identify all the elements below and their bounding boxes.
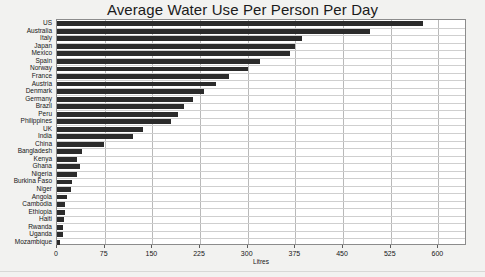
x-tick-label: 0	[54, 249, 58, 258]
bar-us	[57, 21, 423, 26]
bar-china	[57, 142, 104, 147]
bar-row	[57, 195, 465, 200]
y-label-norway: Norway	[30, 64, 52, 71]
bar-burkina-faso	[57, 180, 72, 185]
y-label-italy: Italy	[40, 34, 52, 41]
y-label-cambodia: Cambodia	[22, 200, 52, 207]
y-label-rwanda: Rwanda	[28, 223, 52, 230]
bar-spain	[57, 59, 260, 64]
y-label-mozambique: Mozambique	[15, 238, 52, 245]
y-label-burkina-faso: Burkina Faso	[14, 177, 52, 184]
bar-row	[57, 97, 465, 102]
bar-row	[57, 202, 465, 207]
y-label-china: China	[35, 140, 52, 147]
bar-angola	[57, 195, 67, 200]
bar-row	[57, 149, 465, 154]
bar-row	[57, 240, 465, 245]
chart-title: Average Water Use Per Person Per Day	[0, 0, 485, 18]
bar-row	[57, 164, 465, 169]
bar-row	[57, 157, 465, 162]
bar-denmark	[57, 89, 204, 94]
bar-italy	[57, 36, 302, 41]
y-label-peru: Peru	[38, 110, 52, 117]
bar-row	[57, 89, 465, 94]
y-label-bangladesh: Bangladesh	[18, 147, 52, 154]
bar-row	[57, 104, 465, 109]
bar-row	[57, 142, 465, 147]
chart-container: Average Water Use Per Person Per Day USA…	[0, 0, 485, 277]
bar-philippines	[57, 119, 171, 124]
bar-row	[57, 134, 465, 139]
y-label-brazil: Brazil	[36, 102, 52, 109]
bar-row	[57, 127, 465, 132]
x-tick-label: 375	[289, 249, 301, 258]
x-tick-label: 450	[336, 249, 348, 258]
y-label-nigeria: Nigeria	[31, 170, 52, 177]
y-label-angola: Angola	[32, 193, 52, 200]
x-tick-label: 150	[146, 249, 158, 258]
bar-austria	[57, 82, 216, 87]
bar-row	[57, 36, 465, 41]
x-tick	[247, 245, 248, 248]
y-label-australia: Australia	[27, 27, 52, 34]
x-tick-label: 300	[241, 249, 253, 258]
bar-rwanda	[57, 225, 63, 230]
bar-niger	[57, 187, 71, 192]
bar-kenya	[57, 157, 77, 162]
bar-nigeria	[57, 172, 77, 177]
y-label-ghana: Ghana	[32, 162, 52, 169]
bar-haiti	[57, 217, 64, 222]
y-label-denmark: Denmark	[26, 87, 52, 94]
bar-row	[57, 180, 465, 185]
y-label-germany: Germany	[25, 95, 52, 102]
bar-mozambique	[57, 240, 60, 245]
bar-uk	[57, 127, 143, 132]
bar-australia	[57, 29, 370, 34]
bar-row	[57, 44, 465, 49]
y-label-spain: Spain	[35, 57, 52, 64]
bar-row	[57, 59, 465, 64]
x-tick-label: 225	[193, 249, 205, 258]
bar-row	[57, 119, 465, 124]
x-tick	[342, 245, 343, 248]
y-label-india: India	[38, 132, 52, 139]
x-axis-title: Litres	[56, 258, 466, 265]
y-label-us: US	[43, 19, 52, 26]
bar-series	[57, 20, 465, 244]
bar-row	[57, 67, 465, 72]
x-tick	[56, 245, 57, 248]
x-tick	[390, 245, 391, 248]
x-tick	[294, 245, 295, 248]
y-label-niger: Niger	[36, 185, 52, 192]
bar-uganda	[57, 232, 63, 237]
bar-japan	[57, 44, 295, 49]
bar-cambodia	[57, 202, 65, 207]
bar-bangladesh	[57, 149, 82, 154]
bar-norway	[57, 67, 248, 72]
bar-row	[57, 210, 465, 215]
y-axis-category-labels: USAustraliaItalyJapanMexicoSpainNorwayFr…	[0, 19, 55, 245]
y-label-philippines: Philippines	[21, 117, 52, 124]
y-label-austria: Austria	[32, 80, 52, 87]
bar-row	[57, 187, 465, 192]
x-tick	[199, 245, 200, 248]
y-label-kenya: Kenya	[34, 155, 52, 162]
x-tick	[437, 245, 438, 248]
bar-row	[57, 21, 465, 26]
y-label-uk: UK	[43, 125, 52, 132]
bar-france	[57, 74, 229, 79]
x-tick	[104, 245, 105, 248]
x-tick-label: 75	[100, 249, 108, 258]
y-label-mexico: Mexico	[31, 49, 52, 56]
bottom-divider	[0, 271, 485, 272]
y-label-uganda: Uganda	[29, 230, 52, 237]
bar-peru	[57, 112, 178, 117]
plot-area	[56, 19, 466, 245]
bar-row	[57, 232, 465, 237]
bar-ghana	[57, 164, 80, 169]
bar-ethiopia	[57, 210, 65, 215]
bar-row	[57, 82, 465, 87]
bar-row	[57, 29, 465, 34]
y-label-japan: Japan	[34, 42, 52, 49]
y-label-ethiopia: Ethiopia	[29, 208, 53, 215]
